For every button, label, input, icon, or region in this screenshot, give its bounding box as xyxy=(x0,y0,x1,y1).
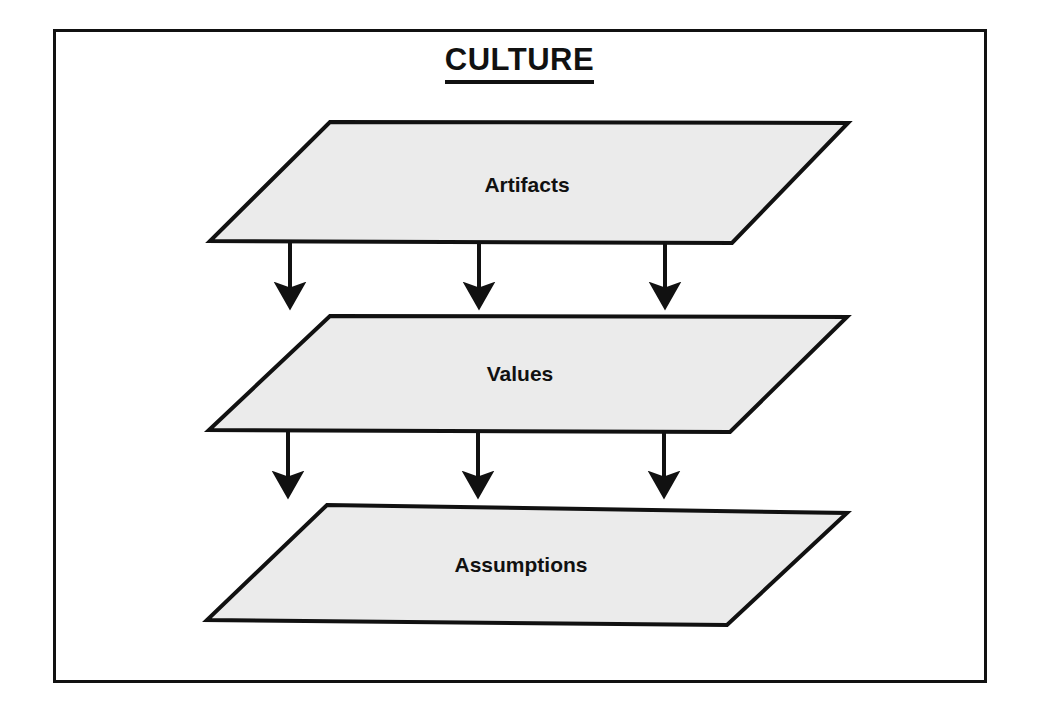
layer-shape-artifacts[interactable] xyxy=(210,122,848,243)
layer-shape-values[interactable] xyxy=(209,316,847,432)
layer-shape-assumptions[interactable] xyxy=(207,505,847,625)
diagram-canvas: CULTURE Artifacts Values Assumptions xyxy=(0,0,1039,714)
culture-layers-svg xyxy=(0,0,1039,714)
